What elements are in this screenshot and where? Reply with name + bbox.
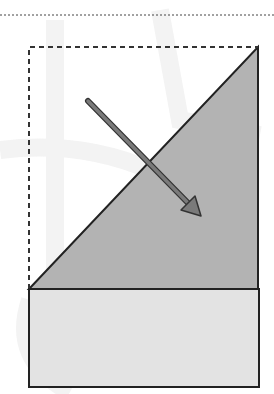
base-rectangle — [29, 289, 259, 387]
fold-diagram — [0, 0, 274, 394]
